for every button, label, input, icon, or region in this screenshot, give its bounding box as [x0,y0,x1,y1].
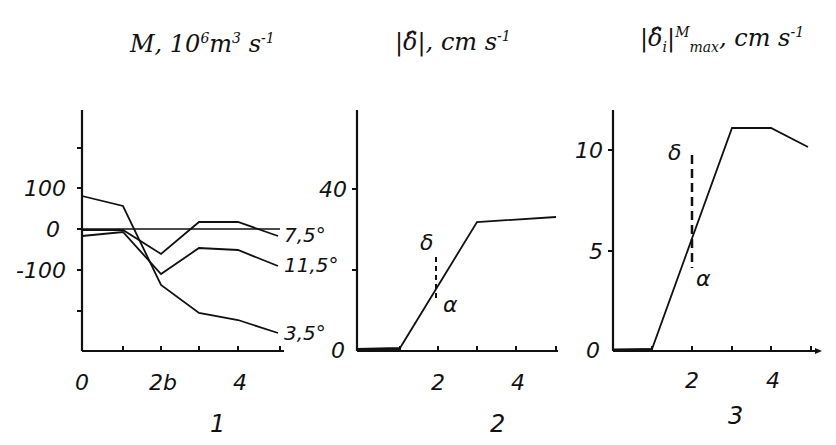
panel-2-xtick-4: 4 [511,370,525,395]
panel-3-plot [608,110,822,354]
panel-1-ytick-0: 0 [46,217,60,242]
panel-2-number: 2 [490,410,505,438]
panel-1-ytick-neg100: -100 [16,258,66,283]
panel-1-xtick-4: 4 [233,370,247,395]
figure-canvas: 100 0 -100 0 2b 4 7,5° 11,5° 3,5° 40 0 2… [0,0,836,445]
panel-1-label-7-5: 7,5° [284,223,326,247]
panel-3-number: 3 [728,402,743,430]
panel-3-ytick-10: 10 [575,138,603,163]
panel-3-ytick-0: 0 [586,338,600,363]
panel-3-ytick-5: 5 [589,239,603,264]
panel-1-ytick-100: 100 [24,176,66,201]
panel-2-series [357,217,556,349]
panel-2-annotation-alpha: α [443,292,458,317]
panel-3-series [613,128,808,350]
panel-1-number: 1 [210,410,225,438]
panel-3-xtick-4: 4 [766,368,780,393]
panel-1-plot [77,110,284,351]
panel-2-annotation-delta: δ [420,230,433,255]
panel-1-series-3-5 [82,196,278,333]
panel-1-series-7-5 [82,222,278,254]
panel-1-xtick-2b: 2b [149,370,177,395]
panel-3-xtick-2: 2 [685,368,699,393]
panel-2-xtick-2: 2 [431,370,445,395]
panel-2-ytick-0: 0 [331,338,345,363]
panel-3-annotation-alpha: α [696,266,711,291]
panel-1-xtick-0: 0 [75,370,89,395]
panel-2-ytick-40: 40 [319,177,347,202]
panel-3-annotation-delta: δ [668,140,681,165]
panel-1-label-3-5: 3,5° [284,321,326,345]
panel-1-label-11-5: 11,5° [284,253,339,277]
